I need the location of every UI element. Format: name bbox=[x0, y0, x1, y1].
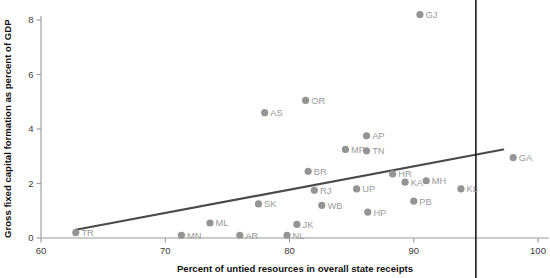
x-tick-label: 90 bbox=[408, 245, 419, 256]
data-point-label-MH: MH bbox=[432, 176, 446, 186]
data-point-ML[interactable] bbox=[206, 219, 213, 226]
data-point-AR[interactable] bbox=[236, 232, 243, 239]
data-point-TR[interactable] bbox=[72, 229, 79, 236]
data-point-label-AR: AR bbox=[245, 231, 258, 241]
data-point-AS[interactable] bbox=[261, 109, 268, 116]
data-point-label-MN: MN bbox=[187, 231, 201, 241]
data-point-label-PB: PB bbox=[419, 197, 431, 207]
data-point-OR[interactable] bbox=[302, 97, 309, 104]
x-tick-label: 80 bbox=[284, 245, 295, 256]
data-point-TN[interactable] bbox=[363, 147, 370, 154]
data-point-label-AS: AS bbox=[270, 108, 282, 118]
trend-line bbox=[76, 149, 503, 229]
data-point-label-MP: MP bbox=[351, 145, 365, 155]
data-point-label-RJ: RJ bbox=[320, 186, 331, 196]
y-axis-title: Gross fixed capital formation as percent… bbox=[2, 19, 13, 238]
data-point-label-HP: HP bbox=[373, 208, 386, 218]
data-point-AP[interactable] bbox=[363, 132, 370, 139]
data-point-HR[interactable] bbox=[389, 170, 396, 177]
data-point-JK[interactable] bbox=[293, 221, 300, 228]
data-point-label-TN: TN bbox=[372, 146, 384, 156]
x-tick-label: 60 bbox=[36, 245, 47, 256]
data-point-label-GJ: GJ bbox=[426, 10, 438, 20]
y-tick-label: 8 bbox=[28, 14, 33, 25]
data-point-MP[interactable] bbox=[342, 146, 349, 153]
data-point-label-OR: OR bbox=[311, 96, 325, 106]
data-point-UP[interactable] bbox=[353, 185, 360, 192]
x-tick-label: 70 bbox=[160, 245, 171, 256]
data-point-GA[interactable] bbox=[510, 154, 517, 161]
data-point-KL[interactable] bbox=[457, 185, 464, 192]
y-tick-label: 2 bbox=[28, 178, 33, 189]
y-tick-label: 0 bbox=[28, 232, 33, 243]
data-point-label-AP: AP bbox=[372, 131, 384, 141]
x-axis-title: Percent of untied resources in overall s… bbox=[177, 263, 413, 274]
data-point-KA[interactable] bbox=[401, 179, 408, 186]
data-point-label-TR: TR bbox=[81, 228, 94, 238]
data-point-label-GA: GA bbox=[519, 153, 533, 163]
y-tick-label: 4 bbox=[28, 123, 33, 134]
data-point-MH[interactable] bbox=[423, 177, 430, 184]
data-point-label-BR: BR bbox=[314, 167, 327, 177]
x-tick-label: 100 bbox=[530, 245, 546, 256]
data-point-label-ML: ML bbox=[216, 218, 229, 228]
data-point-label-JK: JK bbox=[303, 220, 315, 230]
data-point-NL[interactable] bbox=[283, 232, 290, 239]
data-point-label-WB: WB bbox=[327, 201, 342, 211]
data-point-label-KL: KL bbox=[467, 184, 478, 194]
data-point-MN[interactable] bbox=[178, 232, 185, 239]
chart-canvas: 0246860708090100TRMNMLARSKNLJKASORBRRJWB… bbox=[0, 0, 550, 278]
data-point-label-SK: SK bbox=[264, 199, 277, 209]
data-point-label-NL: NL bbox=[293, 231, 305, 241]
data-point-label-KA: KA bbox=[411, 178, 424, 188]
data-point-HP[interactable] bbox=[364, 209, 371, 216]
data-point-SK[interactable] bbox=[255, 200, 262, 207]
data-point-GJ[interactable] bbox=[416, 11, 423, 18]
data-point-label-UP: UP bbox=[362, 184, 375, 194]
data-point-RJ[interactable] bbox=[311, 187, 318, 194]
y-tick-label: 6 bbox=[28, 69, 33, 80]
data-point-PB[interactable] bbox=[410, 198, 417, 205]
scatter-chart: 0246860708090100TRMNMLARSKNLJKASORBRRJWB… bbox=[0, 0, 550, 278]
data-point-BR[interactable] bbox=[305, 168, 312, 175]
data-point-WB[interactable] bbox=[318, 202, 325, 209]
